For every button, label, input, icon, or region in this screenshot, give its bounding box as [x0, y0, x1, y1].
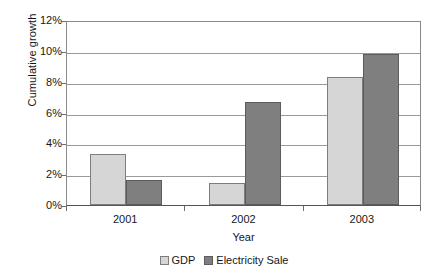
- bar-2001-electricity-sale: [126, 180, 162, 205]
- x-axis-tick-label-2003: 2003: [303, 213, 421, 226]
- legend-label: GDP: [172, 254, 196, 266]
- bar-2001-gdp: [90, 154, 126, 205]
- x-axis-title: Year: [66, 231, 421, 243]
- x-axis-tick-label-2002: 2002: [184, 213, 302, 226]
- bar-2002-gdp: [209, 183, 245, 205]
- y-axis-tick-labels: 0%2%4%6%8%10%12%: [26, 0, 62, 279]
- y-axis-tick-label: 2%: [26, 169, 62, 180]
- x-axis-tick-label-2001: 2001: [66, 213, 184, 226]
- x-axis-tick-mark: [66, 206, 67, 211]
- bar-series-layer: [67, 22, 420, 205]
- y-axis-tick-label: 6%: [26, 108, 62, 119]
- y-axis-tick-label: 0%: [26, 200, 62, 211]
- x-axis-tick-labels: 200120022003: [66, 213, 421, 229]
- x-axis-tick-mark: [420, 206, 421, 211]
- y-axis-tick-label: 8%: [26, 77, 62, 88]
- bar-2003-gdp: [327, 77, 363, 205]
- bar-chart: Cumulative growth 0%2%4%6%8%10%12% 20012…: [0, 0, 448, 279]
- bar-2003-electricity-sale: [363, 54, 399, 205]
- x-axis-tick-marks: [66, 206, 421, 212]
- chart-legend: GDPElectricity Sale: [0, 254, 448, 266]
- legend-item-gdp: GDP: [160, 254, 196, 266]
- x-axis-tick-mark: [303, 206, 304, 211]
- legend-swatch-icon: [160, 256, 169, 265]
- plot-area: [66, 21, 421, 206]
- legend-label: Electricity Sale: [216, 254, 288, 266]
- y-axis-tick-label: 10%: [26, 46, 62, 57]
- y-axis-tick-label: 4%: [26, 138, 62, 149]
- legend-item-electricity-sale: Electricity Sale: [204, 254, 288, 266]
- bar-2002-electricity-sale: [245, 102, 281, 205]
- y-axis-tick-label: 12%: [26, 15, 62, 26]
- x-axis-tick-mark: [184, 206, 185, 211]
- legend-swatch-icon: [204, 256, 213, 265]
